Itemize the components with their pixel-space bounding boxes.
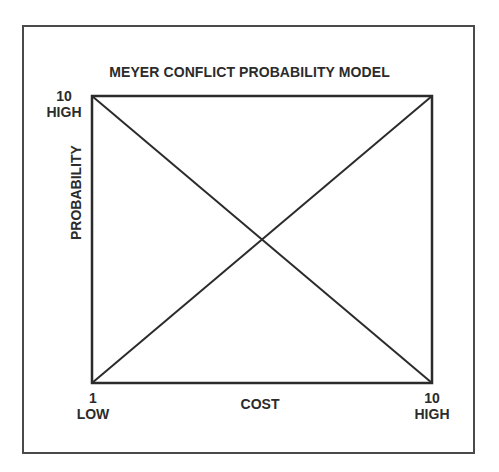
x-axis-label: COST	[230, 396, 290, 412]
y-axis-label: PROBABILITY	[68, 145, 84, 240]
x-axis-left-tick: 1 LOW	[76, 390, 110, 422]
x-left-text: LOW	[76, 406, 110, 422]
y-top-text: HIGH	[44, 104, 84, 120]
chart-title: MEYER CONFLICT PROBABILITY MODEL	[0, 64, 499, 80]
x-right-value: 10	[406, 390, 458, 406]
y-axis-top-tick: 10 HIGH	[44, 88, 84, 120]
y-top-value: 10	[44, 88, 84, 104]
x-left-value: 1	[76, 390, 110, 406]
x-right-text: HIGH	[406, 406, 458, 422]
x-axis-right-tick: 10 HIGH	[406, 390, 458, 422]
